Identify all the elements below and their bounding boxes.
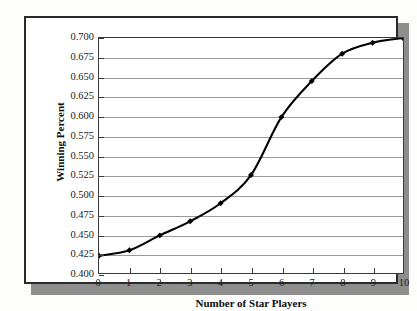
y-tick-mark (99, 176, 104, 177)
x-tick-label: 5 (248, 278, 253, 289)
y-axis-title: Winning Percent (54, 62, 66, 222)
y-tick-label: 0.550 (70, 151, 94, 162)
x-axis-tick-labels: 012345678910 (98, 278, 404, 292)
y-tick-mark (99, 275, 104, 276)
figure-card: 0.7000.6750.6500.6250.6000.5750.5500.525… (24, 16, 398, 284)
y-tick-mark (99, 137, 104, 138)
y-axis-ticks (99, 38, 403, 273)
y-tick-mark (99, 117, 104, 118)
y-tick-mark (99, 255, 104, 256)
x-axis-title: Number of Star Players (98, 297, 404, 309)
figure-root: 0.7000.6750.6500.6250.6000.5750.5500.525… (0, 0, 417, 311)
x-tick-label: 3 (187, 278, 192, 289)
x-tick-label: 4 (218, 278, 223, 289)
y-tick-mark (99, 236, 104, 237)
x-tick-label: 10 (399, 278, 410, 289)
y-tick-label: 0.625 (70, 91, 94, 102)
y-tick-label: 0.675 (70, 52, 94, 63)
y-tick-mark (99, 157, 104, 158)
x-tick-label: 7 (310, 278, 315, 289)
y-tick-mark (99, 216, 104, 217)
x-tick-label: 8 (340, 278, 345, 289)
y-tick-label: 0.500 (70, 190, 94, 201)
y-tick-label: 0.450 (70, 230, 94, 241)
y-tick-label: 0.650 (70, 72, 94, 83)
y-tick-label: 0.525 (70, 170, 94, 181)
y-tick-mark (99, 97, 104, 98)
y-tick-label: 0.700 (70, 32, 94, 43)
x-tick-label: 1 (126, 278, 131, 289)
y-tick-label: 0.400 (70, 269, 94, 280)
x-tick-label: 0 (95, 278, 100, 289)
plot-area (98, 37, 404, 274)
x-tick-label: 6 (279, 278, 284, 289)
y-tick-mark (99, 78, 104, 79)
y-tick-mark (99, 196, 104, 197)
y-tick-label: 0.600 (70, 111, 94, 122)
x-tick-label: 9 (371, 278, 376, 289)
y-tick-label: 0.475 (70, 210, 94, 221)
y-tick-mark (99, 38, 104, 39)
y-tick-label: 0.575 (70, 131, 94, 142)
y-tick-label: 0.425 (70, 249, 94, 260)
y-tick-mark (99, 58, 104, 59)
x-tick-label: 2 (157, 278, 162, 289)
